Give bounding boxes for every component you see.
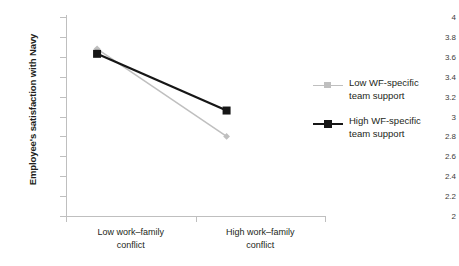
legend-label-high-support-line2: team support xyxy=(349,128,404,139)
legend-label-low-support-line1: Low WF-specific xyxy=(349,77,419,88)
legend-item-low-support[interactable]: Low WF-specific team support xyxy=(313,76,459,102)
series-point xyxy=(93,50,101,58)
legend-item-high-support[interactable]: High WF-specific team support xyxy=(313,114,459,140)
legend-label-high-support-line1: High WF-specific xyxy=(349,115,421,126)
chart-legend: Low WF-specific team support High WF-spe… xyxy=(313,76,459,152)
series-line-high-support xyxy=(97,54,227,111)
legend-marker-high-support-icon xyxy=(313,119,343,128)
legend-label-low-support-line2: team support xyxy=(349,90,404,101)
series-point xyxy=(223,107,231,115)
chart-figure: Employee's satisfaction with Navy 43.83.… xyxy=(0,0,459,266)
legend-marker-low-support-icon xyxy=(313,81,343,90)
